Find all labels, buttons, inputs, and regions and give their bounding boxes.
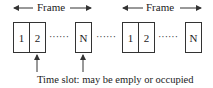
- frame-2-slot-1: 1: [122, 22, 139, 53]
- frame-1-ellipsis: ······: [49, 33, 69, 41]
- frame-2-slot-2: 2: [138, 22, 155, 53]
- frame-1-slot-1: 1: [13, 22, 30, 53]
- time-slot-caption: Time slot: may be emply or occupied: [37, 74, 194, 85]
- between-frames-ellipsis: ······: [96, 33, 116, 41]
- frame-2-slot-n: N: [185, 22, 202, 53]
- frame-1-slot-n: N: [75, 22, 92, 53]
- frame-2-ellipsis: ······: [158, 33, 178, 41]
- frame-1-slot-2: 2: [29, 22, 46, 53]
- frame-2-label: Frame: [144, 1, 176, 14]
- frame-1-label: Frame: [35, 1, 67, 14]
